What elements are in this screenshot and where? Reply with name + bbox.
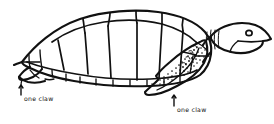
vertebral-seam-3: [136, 11, 137, 23]
beak-mouth-line: [238, 41, 263, 42]
turtle-drawing-canvas: one claw one claw: [0, 0, 274, 124]
costal-scutes-group: [58, 23, 183, 80]
neck-hatch-3: [214, 30, 215, 49]
vertebral-ridge-line: [52, 20, 196, 42]
head-group: [211, 23, 271, 53]
front-claw-label: one claw: [177, 106, 206, 113]
tail-stub: [45, 79, 54, 80]
head-outline: [211, 23, 271, 53]
costal-seam-2: [85, 33, 88, 74]
rear-shell-seam-1: [29, 55, 30, 67]
eye-icon: [246, 30, 252, 35]
annotation-front-claw: one claw: [172, 95, 206, 113]
neck-hatch-4: [218, 31, 219, 48]
anterior-seam-4: [183, 52, 196, 55]
rear-shell-taper: [14, 62, 22, 65]
costal-seam-1: [58, 40, 64, 70]
vertebral-seam-5: [182, 19, 183, 31]
costal-seam-3: [108, 26, 111, 78]
turtle-illustration: one claw one claw: [0, 0, 274, 124]
vertebral-seam-2: [108, 13, 110, 26]
vertebral-seam-1: [83, 19, 85, 33]
rear-claw-label: one claw: [24, 95, 53, 102]
marginal-divider-1: [52, 70, 53, 77]
annotation-rear-claw: one claw: [19, 85, 53, 102]
jaw-seam: [230, 41, 238, 52]
